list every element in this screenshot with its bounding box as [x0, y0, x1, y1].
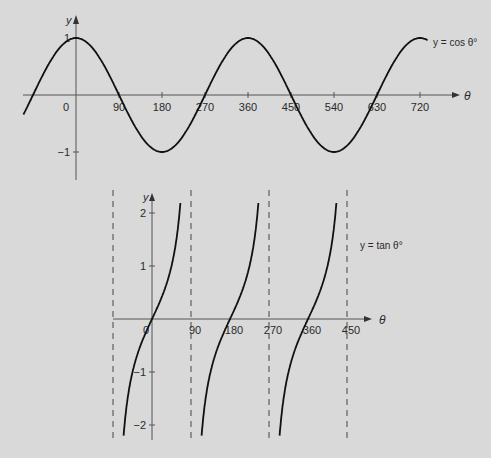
tan-y-label: y [142, 191, 150, 203]
tan-x-ticks: 090180270360450 [143, 324, 360, 336]
trig-graphs-figure: θ y 090180270360450540630720 1−1 y = cos… [0, 0, 491, 458]
cos-x-tick-label: 0 [63, 101, 69, 113]
tan-asymptotes [113, 190, 347, 442]
tan-y-tick-label: −2 [133, 419, 146, 431]
cos-legend-label: y = cos θ° [433, 37, 477, 48]
tan-y-tick-label: 2 [140, 207, 146, 219]
cos-x-tick-label: 360 [239, 101, 257, 113]
tan-y-tick-label: 1 [140, 260, 146, 272]
cos-y-arrow-icon [73, 15, 79, 24]
cos-x-arrow-icon [452, 92, 460, 98]
tan-y-tick-label: −1 [133, 366, 146, 378]
cos-y-tick-label: −1 [57, 146, 70, 158]
cos-y-label: y [65, 14, 73, 26]
tan-x-label: θ [379, 313, 386, 327]
tan-y-arrow-icon [149, 193, 155, 201]
tan-x-arrow-icon [364, 316, 372, 322]
cos-chart: θ y 090180270360450540630720 1−1 y = cos… [23, 14, 477, 180]
tan-x-tick-label: 450 [342, 324, 360, 336]
tan-legend-label: y = tan θ° [360, 240, 403, 251]
tan-chart: θ y 090180270360450 21−1−2 y = tan θ° [113, 190, 403, 442]
cos-x-tick-label: 180 [153, 101, 171, 113]
cos-x-label: θ [464, 89, 471, 103]
cos-x-tick-label: 720 [411, 101, 429, 113]
cos-x-tick-label: 540 [325, 101, 343, 113]
tan-x-tick-label: 90 [189, 324, 201, 336]
tan-x-tick-label: 270 [264, 324, 282, 336]
